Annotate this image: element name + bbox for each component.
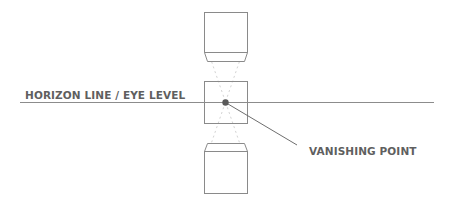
perspective-diagram	[0, 0, 451, 204]
horizon-line-label: HORIZON LINE / EYE LEVEL	[25, 90, 185, 101]
vanishing-point-label: VANISHING POINT	[309, 146, 417, 157]
vanishing-point-dot	[222, 99, 228, 105]
top-box	[205, 13, 248, 62]
bottom-box	[205, 144, 248, 194]
